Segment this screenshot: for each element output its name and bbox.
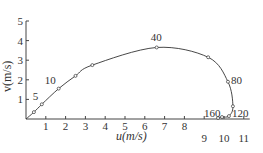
- data-marker: [74, 74, 77, 77]
- x-tick-label: 11: [239, 132, 250, 144]
- y-tick-label: 1: [18, 93, 24, 105]
- x-tick-label: 9: [201, 132, 207, 144]
- data-marker: [221, 116, 224, 119]
- x-tick-label: 1: [43, 120, 49, 132]
- data-marker: [155, 46, 158, 49]
- data-marker: [207, 56, 210, 59]
- point-annotation: 120: [232, 107, 249, 119]
- point-annotation: 40: [151, 31, 163, 43]
- x-axis-label: u(m/s): [116, 129, 147, 143]
- point-annotation: 10: [45, 74, 57, 86]
- x-tick-label: 7: [162, 120, 168, 132]
- y-tick-label: 3: [18, 54, 24, 66]
- x-tick-label: 3: [83, 120, 89, 132]
- y-tick-label: 4: [18, 35, 24, 47]
- x-tick-label: 10: [219, 132, 231, 144]
- data-marker: [226, 80, 229, 83]
- trajectory-curve: 5104080120160: [26, 31, 249, 119]
- y-axis-label: v(m/s): [0, 61, 14, 92]
- x-tick-label: 8: [182, 120, 188, 132]
- data-marker: [91, 64, 94, 67]
- data-marker: [40, 103, 43, 106]
- point-annotation: 5: [33, 90, 39, 102]
- y-tick-label: 2: [18, 74, 24, 86]
- point-annotation: 160: [204, 107, 221, 119]
- x-tick-label: 4: [102, 120, 108, 132]
- data-marker: [57, 87, 60, 90]
- trajectory-chart: 123456789101112345 5104080120160 u(m/s) …: [0, 0, 263, 153]
- data-marker: [32, 111, 35, 114]
- data-marker: [227, 115, 230, 118]
- y-tick-label: 5: [18, 15, 24, 27]
- point-annotation: 80: [231, 74, 243, 86]
- x-tick-label: 2: [63, 120, 69, 132]
